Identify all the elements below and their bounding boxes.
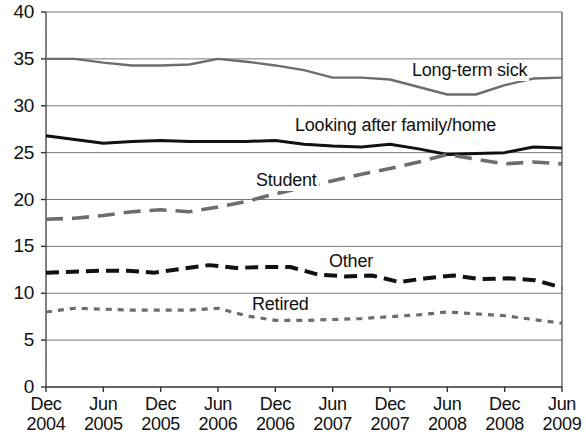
x-tick-label: Jun2007 [303,394,363,434]
y-tick-label: 30 [0,96,34,115]
x-tick-month: Jun [417,394,477,414]
x-tick-label: Jun2006 [188,394,248,434]
x-tick-month: Dec [16,394,76,414]
x-tick-label: Dec2005 [131,394,191,434]
series-label-retired: Retired [250,294,311,315]
x-tick-month: Jun [532,394,586,414]
y-tick-label: 25 [0,143,34,162]
x-tick-year: 2004 [16,414,76,434]
x-tick-year: 2005 [73,414,133,434]
x-tick-month: Jun [303,394,363,414]
y-tick-label: 20 [0,190,34,209]
x-tick-year: 2007 [360,414,420,434]
x-tick-month: Dec [360,394,420,414]
series-line-other [46,265,562,288]
x-tick-year: 2007 [303,414,363,434]
x-tick-label: Jun2005 [73,394,133,434]
y-tick-label: 35 [0,49,34,68]
x-tick-year: 2009 [532,414,586,434]
x-tick-label: Dec2008 [475,394,535,434]
x-tick-year: 2008 [417,414,477,434]
x-tick-month: Dec [475,394,535,414]
y-tick-label: 40 [0,2,34,21]
series-label-other: Other [327,251,375,272]
x-tick-month: Jun [73,394,133,414]
x-tick-year: 2008 [475,414,535,434]
x-tick-year: 2006 [245,414,305,434]
x-tick-label: Dec2007 [360,394,420,434]
x-tick-label: Dec2004 [16,394,76,434]
x-tick-month: Dec [131,394,191,414]
series-label-looking-after-family-home: Looking after family/home [293,115,498,136]
series-label-long-term-sick: Long-term sick [410,60,529,81]
series-line-looking-after-family-home [46,136,562,155]
x-tick-label: Jun2009 [532,394,586,434]
series-label-student: Student [254,170,319,191]
x-tick-month: Dec [245,394,305,414]
y-tick-label: 10 [0,283,34,302]
x-tick-year: 2006 [188,414,248,434]
x-tick-label: Jun2008 [417,394,477,434]
y-tick-label: 5 [0,330,34,349]
y-tick-label: 15 [0,236,34,255]
series-lines [46,59,562,323]
x-tick-label: Dec2006 [245,394,305,434]
x-tick-year: 2005 [131,414,191,434]
x-tick-month: Jun [188,394,248,414]
